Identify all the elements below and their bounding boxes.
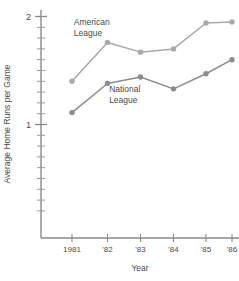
- data-point: [229, 19, 234, 24]
- data-point: [229, 57, 234, 62]
- x-tick-label: '86: [227, 245, 238, 254]
- annotation-line: National: [109, 84, 140, 94]
- annotation-line: League: [109, 95, 138, 105]
- x-tick-label: '85: [201, 245, 212, 254]
- data-point: [105, 40, 110, 45]
- x-tick-label: '83: [135, 245, 146, 254]
- y-axis: 12: [26, 10, 47, 238]
- y-tick-label: 2: [26, 12, 31, 22]
- data-point: [138, 49, 143, 54]
- x-tick-label: '82: [102, 245, 113, 254]
- annotation-line: League: [74, 28, 103, 38]
- series-national-league: [69, 57, 234, 115]
- data-point: [138, 74, 143, 79]
- annotation-american-league: AmericanLeague: [74, 17, 110, 38]
- line-chart-canvas: 12 1981'82'83'84'85'86 AmericanLeagueNat…: [0, 0, 239, 281]
- data-point: [203, 20, 208, 25]
- x-tick-label: '84: [168, 245, 179, 254]
- x-axis-title: Year: [131, 263, 148, 273]
- series-annotations: AmericanLeagueNationalLeague: [74, 17, 141, 105]
- data-point: [69, 79, 74, 84]
- series-line: [72, 60, 232, 113]
- y-tick-label: 1: [26, 120, 31, 130]
- chart-figure: 12 1981'82'83'84'85'86 AmericanLeagueNat…: [0, 0, 239, 281]
- y-axis-title: Average Home Runs per Game: [2, 64, 12, 183]
- data-point: [171, 46, 176, 51]
- annotation-line: American: [74, 17, 110, 27]
- x-tick-label: 1981: [63, 245, 81, 254]
- x-axis-tick-labels: 1981'82'83'84'85'86: [63, 245, 238, 254]
- annotation-national-league: NationalLeague: [109, 84, 140, 105]
- y-axis-tick-labels: 12: [26, 12, 31, 130]
- x-axis: 1981'82'83'84'85'86: [41, 234, 239, 254]
- data-point: [171, 86, 176, 91]
- data-point: [203, 71, 208, 76]
- data-point: [69, 110, 74, 115]
